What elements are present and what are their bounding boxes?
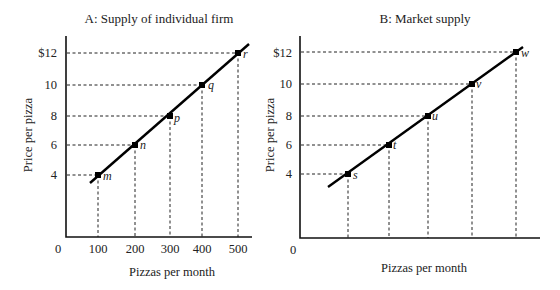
panel-b-market-supply: B: Market supply s t u v w $12 10 8 6 4 … bbox=[263, 11, 540, 275]
panel-a-individual-firm-supply: A: Supply of individual firm m n p q r $… bbox=[21, 11, 252, 279]
xtick-200: 200 bbox=[126, 242, 145, 256]
panel-a-xlabel: Pizzas per month bbox=[129, 265, 216, 279]
point-w bbox=[513, 49, 519, 55]
point-v bbox=[469, 81, 475, 87]
point-s bbox=[345, 171, 351, 177]
ytick-4: 4 bbox=[51, 168, 58, 182]
panel-b-ylabel: Price per pizza bbox=[263, 97, 277, 172]
panel-b-xlabel: Pizzas per month bbox=[381, 261, 468, 275]
label-r: r bbox=[243, 47, 248, 61]
xtick-300: 300 bbox=[161, 242, 180, 256]
label-s: s bbox=[353, 168, 358, 182]
point-m bbox=[95, 172, 101, 178]
label-v: v bbox=[476, 77, 482, 91]
xtick-400: 400 bbox=[193, 242, 212, 256]
ytick-8: 8 bbox=[51, 109, 57, 123]
label-w: w bbox=[521, 46, 529, 60]
ytick-6: 6 bbox=[51, 138, 57, 152]
label-q: q bbox=[208, 78, 214, 92]
panel-b-title: B: Market supply bbox=[380, 11, 471, 26]
point-q bbox=[199, 82, 205, 88]
xtick-0: 0 bbox=[290, 243, 296, 257]
point-n bbox=[132, 142, 138, 148]
ytick-8: 8 bbox=[286, 109, 292, 123]
ytick-6: 6 bbox=[286, 138, 292, 152]
xtick-0: 0 bbox=[55, 242, 61, 256]
label-u: u bbox=[432, 109, 438, 123]
panel-a-title: A: Supply of individual firm bbox=[85, 11, 234, 26]
ytick-12: $12 bbox=[38, 46, 57, 60]
supply-charts: A: Supply of individual firm m n p q r $… bbox=[0, 0, 560, 290]
panel-b-axes bbox=[300, 36, 540, 238]
xtick-100: 100 bbox=[89, 242, 108, 256]
label-t: t bbox=[393, 138, 397, 152]
ytick-4: 4 bbox=[286, 167, 293, 181]
point-u bbox=[425, 113, 431, 119]
ytick-10: 10 bbox=[280, 77, 293, 91]
point-r bbox=[235, 50, 241, 56]
label-m: m bbox=[103, 169, 112, 183]
ytick-12: $12 bbox=[273, 46, 292, 60]
label-n: n bbox=[140, 138, 146, 152]
label-p: p bbox=[173, 111, 180, 125]
point-p bbox=[167, 113, 173, 119]
xtick-500: 500 bbox=[229, 242, 248, 256]
panel-a-ylabel: Price per pizza bbox=[21, 97, 35, 172]
point-t bbox=[386, 142, 392, 148]
ytick-10: 10 bbox=[45, 78, 58, 92]
